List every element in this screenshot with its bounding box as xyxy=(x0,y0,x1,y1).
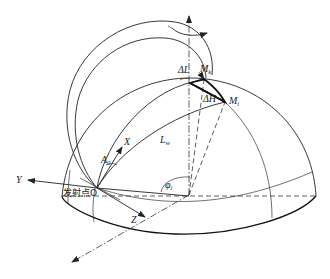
Mk-label: Mk xyxy=(199,63,211,75)
y-axis-arrow xyxy=(28,180,97,188)
trajectory-diagram: Y X Z 发射点O A0 Lw ΔL ΔH Mk Mi φi xyxy=(0,0,330,279)
range-label: Lw xyxy=(159,134,171,146)
radial-to-Mi xyxy=(189,102,225,195)
lobe-outer-circle xyxy=(67,21,213,188)
phi-label: φi xyxy=(165,179,173,191)
arc-launch-to-Mi xyxy=(97,102,225,188)
rotation-arrow-tail xyxy=(168,26,172,28)
meridian-arc-left2 xyxy=(68,170,70,204)
radial-to-Mk xyxy=(189,80,204,195)
rotation-arrow xyxy=(172,28,207,35)
meridian-arc-right xyxy=(225,102,272,218)
x-axis-label: X xyxy=(123,136,131,147)
lobe-inner-circle xyxy=(75,38,206,188)
z-axis-label: Z xyxy=(131,214,137,225)
diagonal-axis xyxy=(72,195,189,262)
deltaL-label: ΔL xyxy=(177,64,190,75)
azimuth-label: A0 xyxy=(100,154,111,166)
launch-point-label: 发射点O xyxy=(63,187,97,198)
Mi-label: Mi xyxy=(228,95,239,107)
z-axis-arrow xyxy=(97,188,145,217)
y-axis-label: Y xyxy=(16,174,23,185)
latitude-arc-lower xyxy=(97,172,312,202)
deltaH-label: ΔH xyxy=(202,93,217,104)
